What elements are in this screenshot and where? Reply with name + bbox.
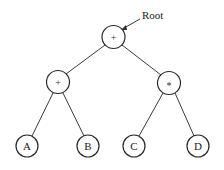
expression-tree-diagram: Root + + * A B C D (0, 0, 224, 170)
edge-left-b (63, 93, 84, 136)
edge-right-d (175, 93, 194, 136)
node-c-label: C (130, 140, 137, 152)
node-a-label: A (23, 140, 31, 152)
root-arrow-line (124, 19, 140, 28)
edge-right-c (139, 93, 163, 136)
node-b-label: B (84, 140, 91, 152)
node-left-label: + (55, 77, 61, 88)
node-leaf-d: D (187, 135, 209, 157)
edge-root-right (122, 45, 161, 75)
node-d-label: D (194, 140, 202, 152)
node-left-plus: + (47, 71, 70, 94)
edge-left-a (32, 93, 53, 136)
node-right-multiply: * (158, 72, 181, 95)
node-root-label: + (111, 32, 117, 43)
node-right-label: * (167, 80, 172, 91)
root-label: Root (142, 9, 163, 21)
node-root: + (102, 26, 125, 49)
node-leaf-b: B (77, 135, 99, 157)
edge-root-left (66, 45, 105, 74)
node-leaf-a: A (16, 135, 38, 157)
node-leaf-c: C (123, 135, 145, 157)
root-pointer: Root (121, 9, 163, 30)
